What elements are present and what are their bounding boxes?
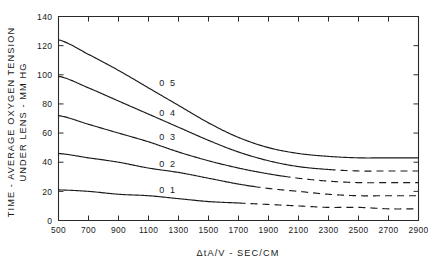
x-tick-label: 500 (51, 225, 66, 235)
y-tick-label: 140 (37, 12, 53, 22)
x-tick-label: 1700 (229, 225, 249, 235)
curve-dashed-0-2 (254, 186, 419, 195)
x-tick-label: 2900 (409, 225, 429, 235)
y-tick-label: 120 (37, 41, 53, 51)
data-curves (59, 40, 419, 209)
curve-label-0-1: 0 1 (159, 185, 176, 195)
x-tick-label: 1300 (169, 225, 189, 235)
x-tick-label: 1900 (259, 225, 279, 235)
curve-label-0-2: 0 2 (159, 159, 176, 169)
x-tick-label: 900 (111, 225, 126, 235)
x-tick-label: 700 (81, 225, 96, 235)
y-tick-label: 100 (37, 70, 53, 80)
y-tick-label: 20 (42, 187, 52, 197)
y-tick-label: 0 (47, 216, 52, 226)
curve-dashed-0-4 (329, 170, 419, 172)
y-axis-title-line-1: TIME - AVERAGE OXYGEN TENSION (6, 27, 16, 217)
y-axis-tick-labels: 020406080100120140 (37, 12, 53, 226)
y-axis-ticks (59, 17, 419, 221)
x-axis-ticks (59, 17, 419, 221)
plot-frame (59, 17, 419, 221)
x-tick-label: 1500 (199, 225, 219, 235)
curve-label-0-5: 0 5 (159, 78, 176, 88)
x-tick-label: 1100 (139, 225, 158, 235)
oxygen-tension-chart-figure: 5007009001100130015001700190021002300250… (0, 0, 440, 262)
y-tick-label: 40 (42, 157, 52, 167)
curve-dashed-0-1 (239, 203, 419, 209)
x-tick-label: 2100 (289, 225, 309, 235)
y-tick-label: 60 (42, 128, 52, 138)
curve-dashed-0-3 (284, 176, 419, 182)
y-axis-title-line-2: UNDER LENS - MM HG (18, 63, 28, 182)
curve-label-0-3: 0 3 (159, 132, 176, 142)
y-tick-label: 80 (42, 99, 52, 109)
curve-label-0-4: 0 4 (159, 108, 176, 118)
x-tick-label: 2300 (319, 225, 339, 235)
x-tick-label: 2500 (349, 225, 369, 235)
curve-solid-0-2 (59, 153, 254, 186)
curve-solid-0-1 (59, 190, 239, 203)
x-axis-tick-labels: 5007009001100130015001700190021002300250… (51, 225, 428, 235)
chart-canvas: 5007009001100130015001700190021002300250… (0, 0, 440, 262)
x-axis-title: ΔtA/V - SEC/CM (197, 248, 280, 258)
curve-solid-0-4 (59, 76, 329, 169)
x-tick-label: 2700 (379, 225, 399, 235)
